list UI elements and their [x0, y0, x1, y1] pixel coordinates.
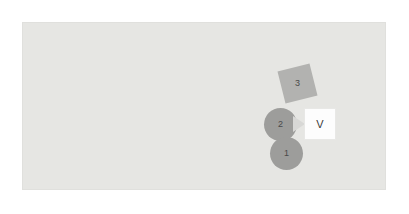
diagram-canvas[interactable]: 3 2 1 V [22, 22, 386, 190]
diagram-node-one[interactable]: 1 [270, 137, 303, 170]
diagram-node-three[interactable]: 3 [277, 63, 317, 103]
screenshot-root: 3 2 1 V [0, 0, 409, 214]
value-box[interactable]: V [304, 108, 336, 140]
node-one-label: 1 [284, 149, 289, 158]
value-box-label: V [316, 119, 323, 130]
node-two-label: 2 [278, 120, 283, 129]
node-three-label: 3 [295, 79, 300, 88]
